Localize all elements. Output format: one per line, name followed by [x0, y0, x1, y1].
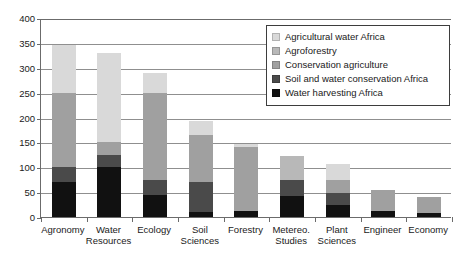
- legend: Agricultural water AfricaAgroforestryCon…: [266, 25, 450, 106]
- bar-segment[interactable]: [97, 142, 121, 154]
- bar-segment[interactable]: [417, 213, 441, 217]
- bar-segment[interactable]: [280, 156, 304, 179]
- bar-segment[interactable]: [97, 167, 121, 217]
- bar-segment[interactable]: [326, 164, 350, 180]
- x-axis-tick-mark: [406, 217, 407, 222]
- x-axis-tick-mark: [87, 217, 88, 222]
- stacked-bar[interactable]: [189, 121, 213, 217]
- bar-segment[interactable]: [52, 45, 76, 93]
- bar-segment[interactable]: [52, 167, 76, 182]
- legend-swatch-icon: [272, 61, 280, 69]
- bar-segment[interactable]: [371, 211, 395, 217]
- legend-swatch-icon: [272, 47, 280, 55]
- bar-slot: [224, 19, 270, 217]
- bar-segment[interactable]: [143, 93, 167, 180]
- bar-slot: [132, 19, 178, 217]
- legend-item[interactable]: Agroforestry: [272, 44, 444, 58]
- bar-segment[interactable]: [234, 211, 258, 217]
- bar-segment[interactable]: [52, 182, 76, 217]
- bar-segment[interactable]: [371, 190, 395, 211]
- legend-swatch-icon: [272, 75, 280, 83]
- bar-segment[interactable]: [97, 155, 121, 167]
- legend-item-label: Soil and water conservation Africa: [285, 74, 428, 84]
- stacked-bar[interactable]: [143, 73, 167, 217]
- x-axis-tick-mark: [178, 217, 179, 222]
- legend-item[interactable]: Water harvesting Africa: [272, 86, 444, 100]
- legend-item-label: Agroforestry: [285, 46, 337, 56]
- stacked-bar[interactable]: [52, 45, 76, 217]
- bar-segment[interactable]: [417, 197, 441, 213]
- legend-swatch-icon: [272, 89, 280, 97]
- bar-segment[interactable]: [326, 205, 350, 217]
- bar-segment[interactable]: [143, 73, 167, 93]
- bar-segment[interactable]: [280, 180, 304, 196]
- legend-item-label: Water harvesting Africa: [285, 88, 383, 98]
- legend-item-label: Conservation agriculture: [285, 60, 388, 70]
- bar-segment[interactable]: [189, 135, 213, 182]
- stacked-bar[interactable]: [326, 164, 350, 217]
- bar-segment[interactable]: [234, 147, 258, 211]
- bar-slot: [41, 19, 87, 217]
- legend-item[interactable]: Conservation agriculture: [272, 58, 444, 72]
- legend-item-label: Agricultural water Africa: [285, 32, 385, 42]
- x-axis-tick-mark: [132, 217, 133, 222]
- x-axis-tick-mark: [224, 217, 225, 222]
- x-axis-tick-mark: [361, 217, 362, 222]
- bar-segment[interactable]: [143, 180, 167, 195]
- bar-segment[interactable]: [97, 53, 121, 143]
- bar-segment[interactable]: [326, 193, 350, 204]
- stacked-bar-chart: 050100150200250300350400 AgronomyWater R…: [0, 0, 459, 267]
- stacked-bar[interactable]: [417, 197, 441, 217]
- stacked-bar[interactable]: [97, 53, 121, 217]
- x-axis-tick-mark: [452, 217, 453, 222]
- bar-segment[interactable]: [189, 212, 213, 217]
- bar-segment[interactable]: [326, 180, 350, 193]
- bar-segment[interactable]: [189, 121, 213, 135]
- legend-swatch-icon: [272, 33, 280, 41]
- stacked-bar[interactable]: [371, 190, 395, 217]
- legend-item[interactable]: Soil and water conservation Africa: [272, 72, 444, 86]
- stacked-bar[interactable]: [234, 144, 258, 217]
- x-axis-tick-mark: [41, 217, 42, 222]
- x-axis-tick-mark: [269, 217, 270, 222]
- bar-segment[interactable]: [280, 196, 304, 217]
- bar-slot: [87, 19, 133, 217]
- bar-segment[interactable]: [143, 195, 167, 217]
- bar-segment[interactable]: [52, 93, 76, 168]
- legend-item[interactable]: Agricultural water Africa: [272, 30, 444, 44]
- x-axis-tick-mark: [315, 217, 316, 222]
- bar-segment[interactable]: [189, 182, 213, 212]
- x-axis-label: Economy: [399, 224, 457, 235]
- stacked-bar[interactable]: [280, 156, 304, 217]
- bar-slot: [178, 19, 224, 217]
